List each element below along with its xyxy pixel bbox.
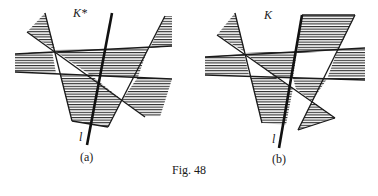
panel-b-diagram [205,13,365,148]
region-b-band-middle [245,51,297,78]
panel-a-diagram [15,13,172,145]
set-label-k-star: K* [73,6,87,21]
figure-caption: Fig. 48 [172,163,206,178]
region-b-top-left-triangle [217,13,245,52]
set-label-k: K [264,8,272,23]
region-a-top-left-triangle [27,13,55,50]
region-a-right-lower [122,77,172,117]
panel-label-b: (b) [272,152,286,167]
line-label-a: l [79,130,82,145]
region-b-band-right [327,48,365,80]
region-a-top-right-wedge [150,16,172,48]
line-label-b: l [272,132,275,147]
panel-label-a: (a) [80,150,93,165]
